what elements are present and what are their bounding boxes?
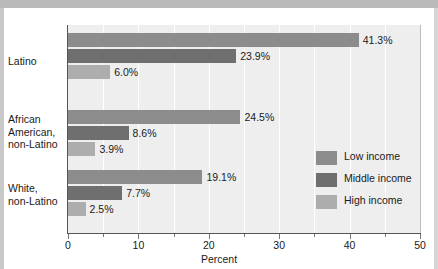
bar-value-label: 6.0% [114,67,138,78]
bar [68,170,202,184]
x-minor-tick-35 [314,234,315,237]
bar [68,65,110,79]
legend-swatch-middle [316,173,337,187]
bar-value-label: 7.7% [126,188,150,199]
legend-label-high: High income [344,194,402,206]
bar-value-label: 2.5% [90,204,114,215]
bar [68,142,95,156]
x-axis-title: Percent [0,253,438,265]
x-minor-tick-15 [174,234,175,237]
category-label: AfricanAmerican,non-Latino [8,113,58,151]
bar [68,49,236,63]
bar-chart-figure: 41.3%23.9%6.0%24.5%8.6%3.9%19.1%7.7%2.5%… [0,0,438,269]
bar-value-label: 41.3% [363,35,393,46]
bar-value-label: 19.1% [206,172,236,183]
x-minor-tick-25 [244,234,245,237]
bar [68,126,129,140]
x-tick-label-0: 0 [65,239,71,251]
bar-value-label: 24.5% [244,112,274,123]
legend-swatch-high [316,195,337,209]
x-tick-label-40: 40 [344,239,356,251]
category-label: Latino [8,55,37,68]
bar-value-label: 23.9% [240,51,270,62]
legend-label-low: Low income [344,150,400,162]
plot-right-edge [420,25,421,234]
bar [68,202,86,216]
bar-value-label: 8.6% [133,128,157,139]
x-tick-label-30: 30 [273,239,285,251]
gridline-30 [279,25,280,233]
legend-swatch-low [316,151,337,165]
bar-value-label: 3.9% [99,144,123,155]
x-tick-label-10: 10 [133,239,145,251]
category-label: White,non-Latino [8,182,58,207]
bar [68,186,122,200]
bar [68,33,359,47]
x-tick-label-50: 50 [414,239,426,251]
legend-label-middle: Middle income [344,172,412,184]
bar [68,110,240,124]
x-tick-label-20: 20 [203,239,215,251]
x-minor-tick-45 [385,234,386,237]
x-minor-tick-5 [103,234,104,237]
